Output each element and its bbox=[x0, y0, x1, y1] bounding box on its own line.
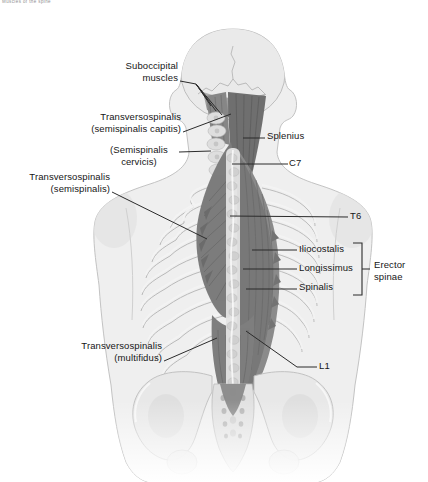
label-erector-spinae: Erector spinae bbox=[374, 259, 405, 282]
label-suboccipital-muscles: Suboccipital muscles bbox=[88, 60, 178, 83]
back-muscles-illustration bbox=[0, 0, 428, 482]
label-longissimus: Longissimus bbox=[299, 262, 353, 274]
bottom-fade bbox=[0, 400, 428, 482]
anatomy-diagram-page: Muscles of the spine bbox=[0, 0, 428, 482]
label-t6: T6 bbox=[350, 210, 361, 222]
label-transversospinalis-capitis: Transversospinalis (semispinalis capitis… bbox=[66, 111, 181, 134]
label-transversospinalis-semispinalis: Transversospinalis (semispinalis) bbox=[18, 171, 110, 194]
label-iliocostalis: Iliocostalis bbox=[299, 243, 344, 255]
label-c7: C7 bbox=[289, 157, 301, 169]
label-transversospinalis-multifidus: Transversospinalis (multifidus) bbox=[70, 340, 162, 363]
label-splenius: Splenius bbox=[267, 130, 304, 142]
label-spinalis: Spinalis bbox=[299, 281, 333, 293]
spinous-process-column bbox=[226, 148, 240, 414]
label-semispinalis-cervicis: (Semispinalis cervicis) bbox=[101, 144, 177, 167]
label-l1: L1 bbox=[319, 360, 330, 372]
